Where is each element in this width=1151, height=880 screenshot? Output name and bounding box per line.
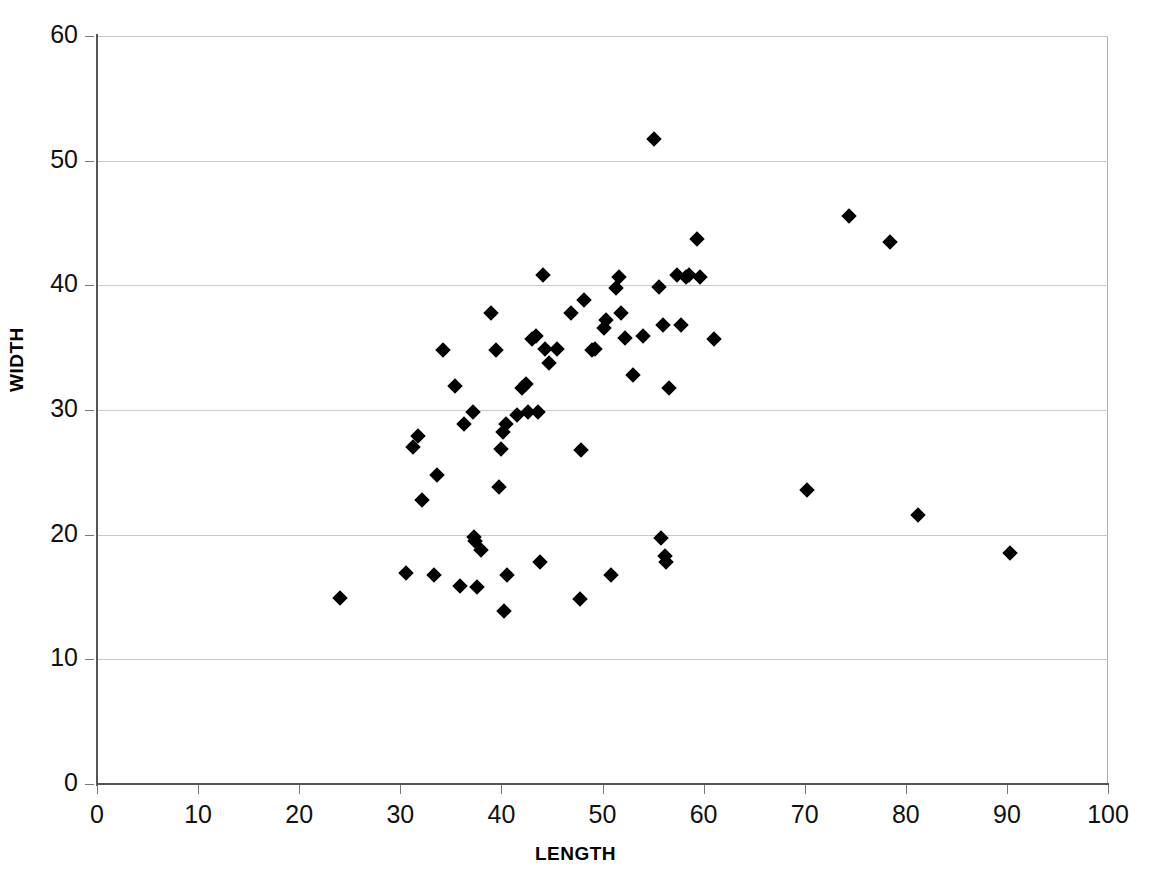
y-axis-title: WIDTH (6, 327, 28, 392)
data-point (617, 330, 633, 346)
data-point (706, 331, 722, 347)
data-point (535, 268, 551, 284)
x-tick-0 (97, 785, 98, 794)
data-point (549, 341, 565, 357)
data-point (573, 442, 589, 458)
data-point (635, 329, 651, 345)
data-point (465, 405, 481, 421)
data-point (661, 380, 677, 396)
x-tick-20 (299, 785, 300, 794)
y-tick-label-50: 50 (0, 145, 78, 174)
y-tick-label-60: 60 (0, 20, 78, 49)
y-axis-line (96, 34, 98, 786)
data-point (332, 590, 348, 606)
x-tick-10 (198, 785, 199, 794)
data-point (674, 317, 690, 333)
data-point (399, 566, 415, 582)
x-tick-label-70: 70 (791, 800, 819, 829)
x-tick-label-30: 30 (386, 800, 414, 829)
y-tick-label-40: 40 (0, 269, 78, 298)
x-tick-70 (805, 785, 806, 794)
x-tick-50 (603, 785, 604, 794)
data-point (530, 405, 546, 421)
data-point (577, 293, 593, 309)
x-axis-title: LENGTH (0, 843, 1151, 865)
y-tick-50 (85, 161, 94, 162)
data-point (625, 367, 641, 383)
y-tick-60 (85, 36, 94, 37)
x-tick-label-80: 80 (892, 800, 920, 829)
y-tick-label-10: 10 (0, 643, 78, 672)
y-tick-0 (85, 784, 94, 785)
data-point (497, 603, 513, 619)
gridline-y-40 (97, 285, 1108, 286)
data-point (651, 279, 667, 295)
data-point (841, 208, 857, 224)
data-point (429, 467, 445, 483)
data-point (469, 579, 485, 595)
data-point (494, 441, 510, 457)
y-tick-label-0: 0 (0, 768, 78, 797)
scatter-chart: 0102030405060 0102030405060708090100 LEN… (0, 0, 1151, 880)
y-tick-20 (85, 535, 94, 536)
y-tick-40 (85, 285, 94, 286)
gridline-y-30 (97, 410, 1108, 411)
data-point (653, 531, 669, 547)
data-point (447, 379, 463, 395)
data-point (426, 567, 442, 583)
y-tick-10 (85, 659, 94, 660)
data-point (1002, 546, 1018, 562)
x-tick-30 (400, 785, 401, 794)
data-point (492, 480, 508, 496)
data-point (799, 482, 815, 498)
data-point (456, 416, 472, 432)
plot-area (97, 36, 1108, 784)
data-point (541, 355, 557, 371)
gridline-y-50 (97, 161, 1108, 162)
data-point (532, 554, 548, 570)
x-tick-40 (501, 785, 502, 794)
x-tick-label-50: 50 (589, 800, 617, 829)
data-point (484, 305, 500, 321)
gridline-y-20 (97, 535, 1108, 536)
y-tick-30 (85, 410, 94, 411)
x-tick-label-100: 100 (1087, 800, 1129, 829)
x-tick-100 (1108, 785, 1109, 794)
data-point (689, 231, 705, 247)
data-point (646, 132, 662, 148)
gridline-y-10 (97, 659, 1108, 660)
x-tick-label-60: 60 (690, 800, 718, 829)
data-point (500, 567, 516, 583)
data-point (655, 317, 671, 333)
y-tick-label-30: 30 (0, 394, 78, 423)
x-tick-label-10: 10 (184, 800, 212, 829)
data-point (489, 342, 505, 358)
gridline-y-60 (97, 36, 1108, 37)
data-point (882, 234, 898, 250)
data-point (613, 305, 629, 321)
x-tick-90 (1007, 785, 1008, 794)
data-point (572, 592, 588, 608)
data-point (435, 342, 451, 358)
data-point (563, 305, 579, 321)
y-tick-label-20: 20 (0, 519, 78, 548)
x-tick-60 (704, 785, 705, 794)
x-tick-label-40: 40 (487, 800, 515, 829)
x-tick-label-0: 0 (90, 800, 104, 829)
data-point (692, 269, 708, 285)
data-point (414, 492, 430, 508)
x-tick-80 (906, 785, 907, 794)
data-point (603, 567, 619, 583)
x-tick-label-20: 20 (285, 800, 313, 829)
x-tick-label-90: 90 (993, 800, 1021, 829)
data-point (452, 578, 468, 594)
data-point (910, 507, 926, 523)
